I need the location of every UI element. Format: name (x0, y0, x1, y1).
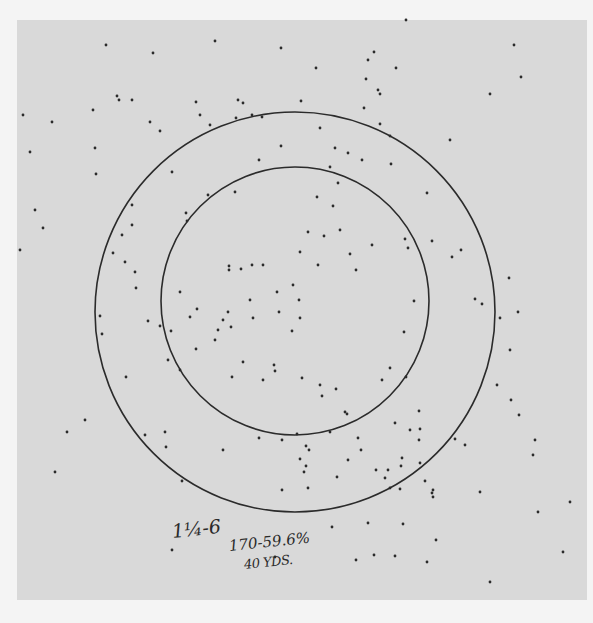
pellet-hit (508, 277, 511, 280)
pellet-hit (165, 446, 168, 449)
pellet-hit (335, 388, 338, 391)
pellet-hit (308, 449, 311, 452)
pellet-hit (402, 523, 405, 526)
pellet-hit (323, 235, 326, 238)
pellet-hit (404, 238, 407, 241)
pellet-hit (449, 139, 452, 142)
pellet-hit (159, 325, 162, 328)
pellet-hit (424, 480, 427, 483)
pellet-hit (230, 326, 233, 329)
pellet-hit (34, 209, 37, 212)
pellet-hit (315, 67, 318, 70)
pellet-hit (373, 51, 376, 54)
pellet-hit (405, 19, 408, 22)
pellet-hit (195, 348, 198, 351)
pellet-hit (228, 269, 231, 272)
pellet-hit (464, 444, 467, 447)
pellet-hit (426, 561, 429, 564)
pellet-hit (242, 102, 245, 105)
pellet-hit (301, 377, 304, 380)
pellet-hit (418, 410, 421, 413)
pellet-hit (101, 333, 104, 336)
pellet-hit (199, 114, 202, 117)
pellet-hit (22, 114, 25, 117)
pellet-hit (303, 471, 306, 474)
pellet-hit (361, 159, 364, 162)
pellet-hit (479, 491, 482, 494)
pellet-hit (54, 471, 57, 474)
pellet-hit (329, 431, 332, 434)
pellet-hit (222, 449, 225, 452)
pellet-hit (489, 581, 492, 584)
pellet-hit (451, 256, 454, 259)
pellet-hit (167, 359, 170, 362)
pellet-hit (331, 526, 334, 529)
pellet-hit (371, 244, 374, 247)
pellet-hit (249, 299, 252, 302)
pellet-hit (278, 311, 281, 314)
pellet-hit (237, 99, 240, 102)
pellet-hit (276, 291, 279, 294)
pellet-hit (131, 99, 134, 102)
pellet-hit (431, 492, 434, 495)
pellet-hit (332, 205, 335, 208)
pellet-hit (390, 163, 393, 166)
pellet-hit (389, 487, 392, 490)
pellet-hit (186, 220, 189, 223)
pellet-hit (316, 196, 319, 199)
pellet-hit (347, 152, 350, 155)
pellet-hit (217, 329, 220, 332)
pellet-hit (19, 249, 22, 252)
pellet-hit (367, 522, 370, 525)
pellet-hit (258, 437, 261, 440)
pellet-hit (481, 303, 484, 306)
pellet-hit (42, 227, 45, 230)
pellet-hit (298, 299, 301, 302)
pellet-hit (562, 551, 565, 554)
pellet-hit (159, 130, 162, 133)
pellet-hit (426, 192, 429, 195)
pellet-hit (349, 253, 352, 256)
pellet-hit (365, 78, 368, 81)
pellet-hit (92, 109, 95, 112)
pellet-hit (164, 431, 167, 434)
pellet-hit (394, 555, 397, 558)
pellet-hit (280, 47, 283, 50)
pellet-hit (222, 319, 225, 322)
pellet-hit (347, 459, 350, 462)
pellet-hit (179, 291, 182, 294)
pellet-hit (262, 264, 265, 267)
pellet-hit (431, 240, 434, 243)
pellet-hit (280, 145, 283, 148)
pellet-hit (329, 166, 332, 169)
pellet-hit (124, 261, 127, 264)
pellet-hit (299, 317, 302, 320)
pellet-hit (207, 194, 210, 197)
pellet-hit (400, 465, 403, 468)
pellet-hit (152, 52, 155, 55)
pellet-hit (291, 330, 294, 333)
pellet-hit (66, 431, 69, 434)
pellet-hit (116, 95, 119, 98)
pellet-hit (171, 171, 174, 174)
pellet-hit (228, 265, 231, 268)
pellet-hit (510, 399, 513, 402)
pellet-hit (147, 320, 150, 323)
pellet-hit (300, 100, 303, 103)
pellet-hit (532, 454, 535, 457)
pellet-hit (296, 433, 299, 436)
pellet-hit (84, 419, 87, 422)
pellet-hit (534, 439, 537, 442)
pellet-hit (118, 99, 121, 102)
pellet-hit (399, 488, 402, 491)
pellet-hit (460, 249, 463, 252)
pellet-hit (520, 76, 523, 79)
pellet-hit (307, 231, 310, 234)
pellet-hit (234, 191, 237, 194)
pellet-hit (292, 284, 295, 287)
pellet-hit (407, 247, 410, 250)
pellet-hit (181, 480, 184, 483)
pellet-hit (242, 361, 245, 364)
pellet-hit (261, 116, 264, 119)
pellet-hit (379, 123, 382, 126)
